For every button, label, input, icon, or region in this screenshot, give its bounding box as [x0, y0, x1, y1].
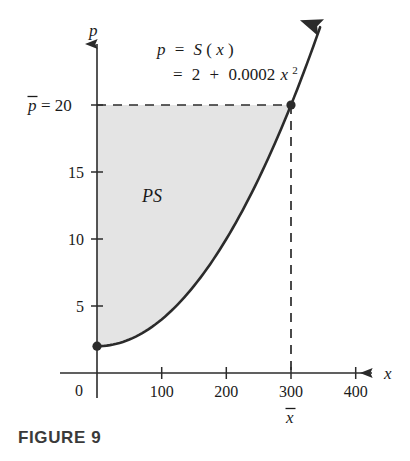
equation-const: 2	[192, 65, 201, 84]
equilibrium-point	[286, 100, 295, 109]
equation-exponent: 2	[292, 64, 298, 76]
x-tick-label-100: 100	[150, 383, 174, 400]
svg-text:= 2 +: = 2 + 0.0002 x 2	[173, 64, 298, 84]
equation-plus: +	[210, 65, 220, 84]
svg-text:p: p	[27, 96, 37, 115]
p-bar-equals-value: = 20	[41, 96, 72, 115]
equation-S: S	[194, 40, 203, 59]
equation-x-arg: x	[215, 40, 224, 59]
figure-caption: FIGURE 9	[18, 428, 101, 448]
equation-coef: 0.0002	[228, 65, 275, 84]
curve-start-point	[92, 342, 101, 351]
equation-paren-open: (	[206, 40, 212, 59]
equation-eq-2: =	[173, 65, 183, 84]
y-tick-label-10: 10	[68, 231, 84, 248]
origin-label: 0	[75, 382, 83, 399]
y-tick-label-15: 15	[68, 164, 84, 181]
y-tick-label-5: 5	[76, 298, 84, 315]
y-axis-label: p	[88, 21, 98, 40]
x-axis-label: x	[383, 364, 392, 383]
x-tick-label-400: 400	[344, 383, 368, 400]
x-tick-label-200: 200	[214, 383, 238, 400]
svg-text:p = S: p = S ( x )	[156, 40, 234, 59]
svg-text:x: x	[285, 408, 294, 427]
equation-eq-1: =	[175, 40, 185, 59]
equation-p: p	[156, 40, 166, 59]
x-bar-symbol: x	[285, 408, 294, 427]
p-bar-symbol: p	[27, 96, 37, 115]
ps-region-label: PS	[141, 186, 162, 206]
p-bar-annotation: p = 20	[27, 96, 72, 115]
figure-container: p x 0 100 200 300 400 5 10 15 p = 20 x	[0, 0, 410, 461]
x-tick-label-300: 300	[279, 383, 303, 400]
equation-paren-close: )	[228, 40, 234, 59]
equation-var: x	[279, 65, 288, 84]
supply-curve-chart: p x 0 100 200 300 400 5 10 15 p = 20 x	[0, 0, 410, 461]
